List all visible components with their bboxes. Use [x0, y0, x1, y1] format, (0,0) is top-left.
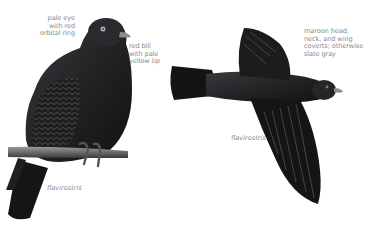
perched-species-label: flavirostris	[47, 184, 82, 192]
annotation-line: yellow tip	[129, 58, 160, 66]
plumage-annotation: maroon head, neck, and wing coverts; oth…	[304, 28, 363, 58]
bill-annotation: red bill with pale yellow tip	[129, 43, 160, 66]
annotation-line: slate gray	[304, 51, 363, 59]
perched-head	[88, 18, 124, 46]
flying-upper-wing	[239, 28, 291, 80]
flying-eye	[326, 86, 329, 89]
flying-bill	[334, 88, 343, 93]
flying-lower-wing	[250, 98, 321, 204]
eye-annotation: pale eye with red orbital ring	[38, 15, 75, 38]
perched-bill	[119, 32, 131, 38]
flying-species-label: flavirostris	[231, 134, 266, 142]
flying-head	[312, 80, 336, 100]
annotation-line: orbital ring	[38, 30, 75, 38]
